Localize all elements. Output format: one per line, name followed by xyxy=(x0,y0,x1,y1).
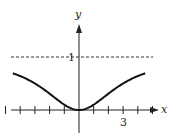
y-axis-label: y xyxy=(74,8,82,21)
x-axis-label: x xyxy=(161,103,168,116)
y-tick-label-1: 1 xyxy=(68,51,75,64)
x-axis-arrow-icon xyxy=(150,107,159,113)
y-axis-arrow-icon xyxy=(76,24,82,33)
function-graph: y x 1 3 xyxy=(0,0,176,137)
x-tick-label-3: 3 xyxy=(120,116,127,129)
